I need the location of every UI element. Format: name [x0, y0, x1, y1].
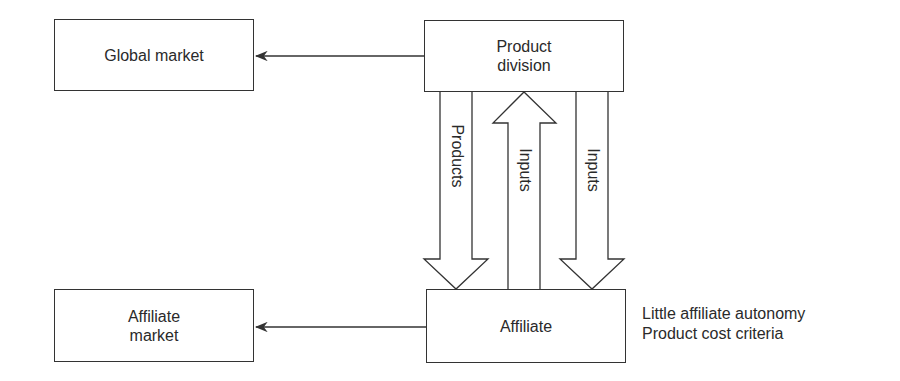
note-autonomy: Little affiliate autonomy — [642, 304, 805, 324]
affiliate-market-box: Affiliate market — [54, 289, 254, 362]
affiliate-market-label-line2: market — [130, 326, 179, 345]
note-cost-criteria: Product cost criteria — [642, 324, 805, 344]
affiliate-box: Affiliate — [426, 289, 626, 363]
affiliate-label: Affiliate — [500, 317, 552, 336]
products-flow-label: Products — [446, 116, 466, 196]
product-division-label-line2: division — [497, 56, 550, 75]
affiliate-notes: Little affiliate autonomy Product cost c… — [642, 304, 805, 344]
product-division-box: Product division — [424, 20, 624, 92]
inputs-down-flow-label: Inputs — [582, 140, 602, 200]
inputs-up-flow-label: Inputs — [514, 140, 534, 200]
affiliate-market-label-line1: Affiliate — [128, 307, 180, 326]
global-market-label: Global market — [104, 46, 204, 65]
product-division-label-line1: Product — [496, 37, 551, 56]
global-market-box: Global market — [54, 19, 254, 91]
